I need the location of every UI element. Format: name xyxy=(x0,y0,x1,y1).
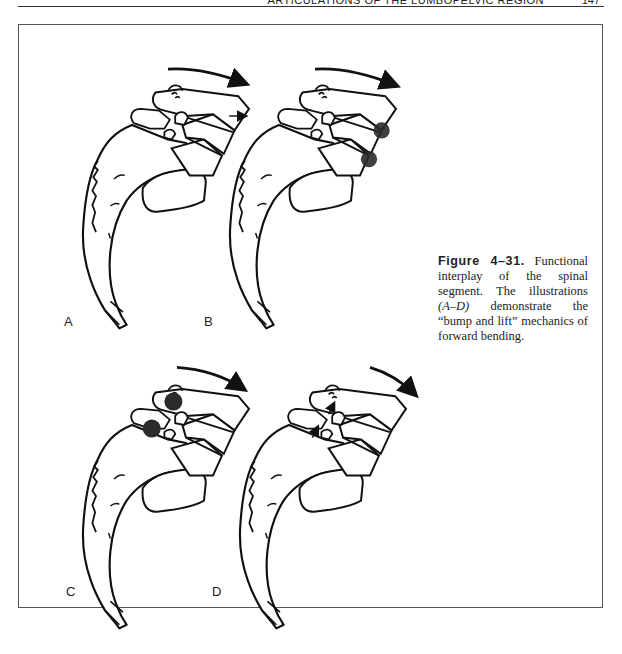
page-number: 147 xyxy=(582,0,600,6)
panel-label-b: B xyxy=(204,314,213,329)
spine-illustration-d xyxy=(210,362,440,632)
facet-contact-icon xyxy=(164,393,182,411)
running-head: Articulations of the Lumbopelvic Region … xyxy=(18,0,604,7)
figure-number-label: Figure 4–31. xyxy=(438,254,525,268)
contact-point-icon xyxy=(361,151,377,167)
illustration-panel-b: B xyxy=(200,62,430,332)
forward-bend-arrow-icon xyxy=(370,367,415,394)
facet-contact-icon xyxy=(143,420,161,438)
forward-bend-arrow-icon xyxy=(315,69,396,85)
illustration-panel-d: D xyxy=(210,362,440,632)
spine-illustration-b xyxy=(200,62,430,332)
running-head-title: Articulations of the Lumbopelvic Region xyxy=(267,0,544,6)
panel-label-c: C xyxy=(66,584,75,599)
caption-panel-range: (A–D) xyxy=(438,299,469,313)
figure-caption: Figure 4–31. Functional interplay of the… xyxy=(438,254,588,344)
panel-label-d: D xyxy=(212,584,221,599)
panel-label-a: A xyxy=(64,314,73,329)
contact-point-icon xyxy=(374,122,390,138)
